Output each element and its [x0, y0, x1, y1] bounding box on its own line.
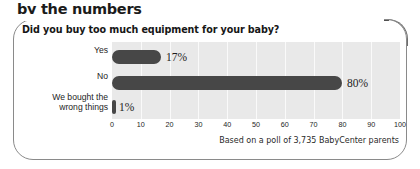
xtick-100: 100	[394, 120, 406, 129]
gridline-80	[342, 42, 343, 119]
chart-category-labels: Yes No We bought the wrong things	[10, 42, 108, 119]
chart-plot-area: 17% 80% 1%	[112, 42, 400, 119]
bar-yes	[112, 50, 161, 64]
bar-value-yes: 17%	[166, 51, 187, 63]
xtick-20: 20	[166, 120, 174, 129]
category-label-wrong-things-line1: We bought the	[52, 92, 108, 102]
category-label-no: No	[12, 72, 108, 82]
xtick-10: 10	[137, 120, 145, 129]
bar-value-no: 80%	[347, 77, 368, 89]
xtick-30: 30	[194, 120, 202, 129]
xtick-90: 90	[367, 120, 375, 129]
xtick-0: 0	[110, 120, 114, 129]
chart-source-note: Based on a poll of 3,735 BabyCenter pare…	[219, 136, 399, 145]
bar-no	[112, 76, 342, 90]
xtick-50: 50	[252, 120, 260, 129]
bar-wrong-things	[112, 100, 116, 114]
xtick-70: 70	[310, 120, 318, 129]
xtick-60: 60	[281, 120, 289, 129]
xtick-40: 40	[223, 120, 231, 129]
gridline-90	[371, 42, 372, 119]
category-label-wrong-things: We bought the wrong things	[12, 93, 108, 112]
category-label-wrong-things-line2: wrong things	[59, 102, 108, 112]
card-top-mask	[14, 14, 384, 21]
xtick-80: 80	[338, 120, 346, 129]
bar-value-wrong-things: 1%	[119, 101, 134, 113]
chart-question-title: Did you buy too much equipment for your …	[22, 24, 279, 35]
category-label-yes: Yes	[12, 46, 108, 56]
chart-x-axis: 0 10 20 30 40 50 60 70 80 90 100	[112, 120, 400, 130]
